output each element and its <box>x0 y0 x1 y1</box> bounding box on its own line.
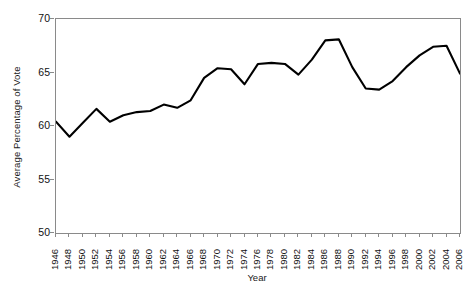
x-tick-mark <box>432 233 433 237</box>
x-tick-label: 1950 <box>77 249 86 270</box>
x-tick-mark <box>284 233 285 237</box>
x-tick-mark <box>257 233 258 237</box>
x-axis-tick-labels: 1946194819501952195419561958196019621964… <box>0 236 470 270</box>
y-tick-mark <box>50 179 54 180</box>
x-tick-mark <box>68 233 69 237</box>
x-tick-label: 1948 <box>63 249 72 270</box>
x-tick-label: 1976 <box>252 249 261 270</box>
x-tick-label: 1966 <box>185 249 194 270</box>
x-tick-mark <box>311 233 312 237</box>
x-tick-mark <box>419 233 420 237</box>
y-tick-mark <box>50 232 54 233</box>
x-tick-label: 1970 <box>212 249 221 270</box>
x-tick-mark <box>405 233 406 237</box>
x-tick-mark <box>163 233 164 237</box>
x-tick-mark <box>95 233 96 237</box>
x-tick-mark <box>244 233 245 237</box>
line-series-svg <box>56 19 460 233</box>
x-tick-label: 1994 <box>373 249 382 270</box>
x-tick-label: 1952 <box>90 249 99 270</box>
x-tick-label: 1982 <box>292 249 301 270</box>
x-tick-label: 2004 <box>441 249 450 270</box>
x-tick-label: 1986 <box>319 249 328 270</box>
x-tick-mark <box>351 233 352 237</box>
y-tick-label: 55 <box>20 173 50 185</box>
x-tick-mark <box>378 233 379 237</box>
x-tick-mark <box>338 233 339 237</box>
x-tick-label: 1960 <box>144 249 153 270</box>
x-tick-label: 1964 <box>171 249 180 270</box>
x-tick-mark <box>82 233 83 237</box>
x-tick-mark <box>109 233 110 237</box>
x-tick-label: 2006 <box>454 249 463 270</box>
y-tick-mark <box>50 125 54 126</box>
x-tick-mark <box>392 233 393 237</box>
x-tick-label: 1998 <box>400 249 409 270</box>
x-tick-label: 1974 <box>239 249 248 270</box>
x-tick-mark <box>190 233 191 237</box>
x-tick-mark <box>446 233 447 237</box>
x-tick-label: 1990 <box>346 249 355 270</box>
x-tick-label: 1946 <box>50 249 59 270</box>
x-tick-label: 1996 <box>387 249 396 270</box>
x-tick-mark <box>136 233 137 237</box>
x-tick-label: 1978 <box>265 249 274 270</box>
x-tick-label: 1992 <box>360 249 369 270</box>
y-tick-label: 70 <box>20 12 50 24</box>
y-tick-mark <box>50 72 54 73</box>
x-tick-mark <box>217 233 218 237</box>
x-tick-mark <box>149 233 150 237</box>
x-tick-label: 1988 <box>333 249 342 270</box>
x-axis-title: Year <box>55 272 459 283</box>
data-line <box>56 39 460 136</box>
x-tick-mark <box>203 233 204 237</box>
x-tick-label: 1980 <box>279 249 288 270</box>
x-tick-mark <box>176 233 177 237</box>
x-tick-label: 1956 <box>117 249 126 270</box>
x-tick-mark <box>230 233 231 237</box>
x-tick-mark <box>297 233 298 237</box>
x-tick-mark <box>270 233 271 237</box>
x-tick-label: 1954 <box>104 249 113 270</box>
x-tick-label: 2000 <box>414 249 423 270</box>
x-tick-label: 2002 <box>427 249 436 270</box>
x-tick-label: 1972 <box>225 249 234 270</box>
x-tick-label: 1984 <box>306 249 315 270</box>
plot-area <box>55 18 461 234</box>
x-tick-mark <box>324 233 325 237</box>
y-tick-mark <box>50 18 54 19</box>
x-tick-label: 1968 <box>198 249 207 270</box>
x-tick-label: 1958 <box>131 249 140 270</box>
y-tick-label: 65 <box>20 66 50 78</box>
y-tick-label: 60 <box>20 119 50 131</box>
x-tick-mark <box>365 233 366 237</box>
x-tick-mark <box>55 233 56 237</box>
x-tick-label: 1962 <box>158 249 167 270</box>
x-tick-mark <box>122 233 123 237</box>
chart-figure: Average Percentage of Vote 5055606570 19… <box>0 0 470 289</box>
x-tick-mark <box>459 233 460 237</box>
